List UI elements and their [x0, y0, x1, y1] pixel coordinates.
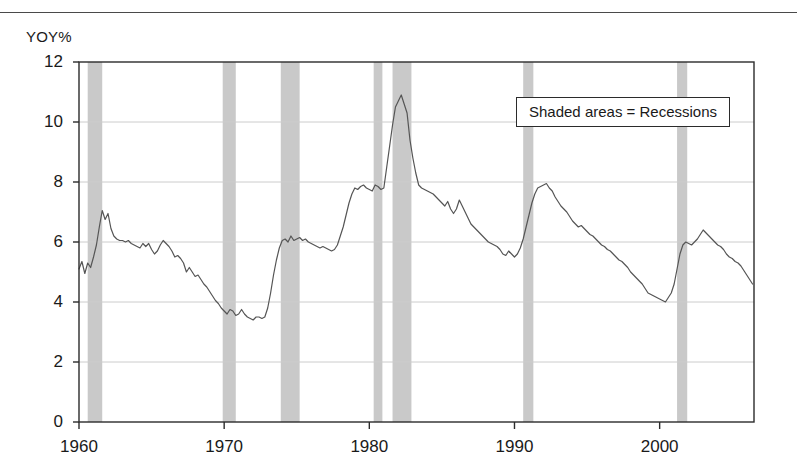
- figure-chart: YOY% 024681012 19601970198019902000 Shad…: [0, 0, 797, 475]
- y-axis-tick-label: 12: [21, 53, 63, 70]
- y-axis-tick-label: 10: [21, 113, 63, 130]
- x-axis-tick-label: 2000: [625, 438, 695, 455]
- x-axis-tick-label: 1960: [44, 438, 114, 455]
- gridlines: [79, 122, 754, 362]
- x-axis-tick-label: 1980: [334, 438, 404, 455]
- x-axis-tick-label: 1970: [189, 438, 259, 455]
- y-axis-tick-label: 0: [21, 413, 63, 430]
- data-line-yoy: [79, 95, 753, 320]
- y-axis-tick-label: 4: [21, 293, 63, 310]
- x-axis-tick-label: 1990: [479, 438, 549, 455]
- data-line-group: [79, 95, 753, 320]
- plot-canvas: [0, 0, 797, 475]
- y-axis-tick-label: 6: [21, 233, 63, 250]
- legend-shaded-areas: Shaded areas = Recessions: [516, 97, 730, 127]
- y-axis-tick-label: 2: [21, 353, 63, 370]
- y-axis-tick-label: 8: [21, 173, 63, 190]
